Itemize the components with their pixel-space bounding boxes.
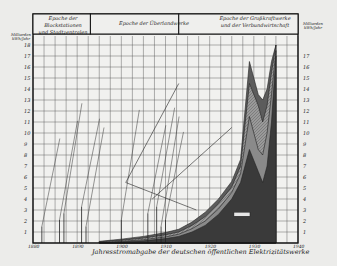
- y-tick-left: 8: [24, 152, 27, 158]
- y-axis-unit-left: Milliarden kWh/Jahr: [10, 33, 32, 41]
- y-tick-left: 16: [24, 64, 30, 70]
- y-tick-left: 15: [24, 75, 30, 81]
- epoch-label-blockstationen: Epoche der Blockstationen und Stadtzentr…: [34, 15, 92, 36]
- y-axis-unit-right: Milliarden kWh/Jahr: [300, 22, 326, 30]
- y-tick-right: 2: [303, 218, 306, 224]
- y-tick-left: 1: [24, 229, 27, 235]
- y-tick-right: 15: [303, 75, 309, 81]
- epoch-3-line-2: und der Verbundwirtschaft: [212, 22, 298, 29]
- y-tick-right: 9: [303, 141, 306, 147]
- chart-plot: [0, 0, 337, 266]
- x-tick: 1880: [28, 244, 39, 249]
- epoch-label-grosskraftwerke: Epoche der Großkraftwerke und der Verbun…: [212, 15, 298, 29]
- x-axis-title: Jahresstromabgabe der deutschen öffentli…: [92, 248, 309, 256]
- x-tick: 1890: [72, 244, 83, 249]
- y-tick-left: 4: [24, 196, 27, 202]
- inset-label-box: [234, 212, 250, 216]
- y-tick-right: 8: [303, 152, 306, 158]
- y-tick-left: 18: [24, 42, 30, 48]
- y-tick-left: 5: [24, 185, 27, 191]
- y-tick-right: 4: [303, 196, 306, 202]
- y-tick-left: 17: [24, 53, 30, 59]
- y-tick-right: 16: [303, 64, 309, 70]
- chart-figure: Epoche der Blockstationen und Stadtzentr…: [0, 0, 337, 266]
- unit-left-line-2: kWh/Jahr: [10, 37, 32, 41]
- y-tick-right: 12: [303, 108, 309, 114]
- y-tick-right: 11: [303, 119, 309, 125]
- epoch-label-ueberlandwerke: Epoche der Überlandwerke: [94, 20, 214, 27]
- epoch-1-line-2: und Stadtzentralen: [34, 29, 92, 36]
- y-tick-left: 12: [24, 108, 30, 114]
- y-tick-right: 7: [303, 163, 306, 169]
- y-tick-left: 3: [24, 207, 27, 213]
- y-tick-right: 10: [303, 130, 309, 136]
- epoch-3-line-1: Epoche der Großkraftwerke: [212, 15, 298, 22]
- y-tick-left: 14: [24, 86, 30, 92]
- y-tick-right: 14: [303, 86, 309, 92]
- epoch-2-line: Epoche der Überlandwerke: [94, 20, 214, 27]
- y-tick-left: 2: [24, 218, 27, 224]
- y-tick-right: 13: [303, 97, 309, 103]
- y-tick-right: 1: [303, 229, 306, 235]
- y-tick-left: 7: [24, 163, 27, 169]
- unit-right-line-2: kWh/Jahr: [300, 26, 326, 30]
- y-tick-left: 11: [24, 119, 30, 125]
- y-tick-left: 6: [24, 174, 27, 180]
- y-tick-left: 10: [24, 130, 30, 136]
- y-tick-right: 3: [303, 207, 306, 213]
- y-tick-left: 9: [24, 141, 27, 147]
- y-tick-left: 13: [24, 97, 30, 103]
- y-tick-right: 17: [303, 53, 309, 59]
- y-tick-right: 5: [303, 185, 306, 191]
- epoch-1-line-1: Epoche der Blockstationen: [34, 15, 92, 29]
- y-tick-right: 6: [303, 174, 306, 180]
